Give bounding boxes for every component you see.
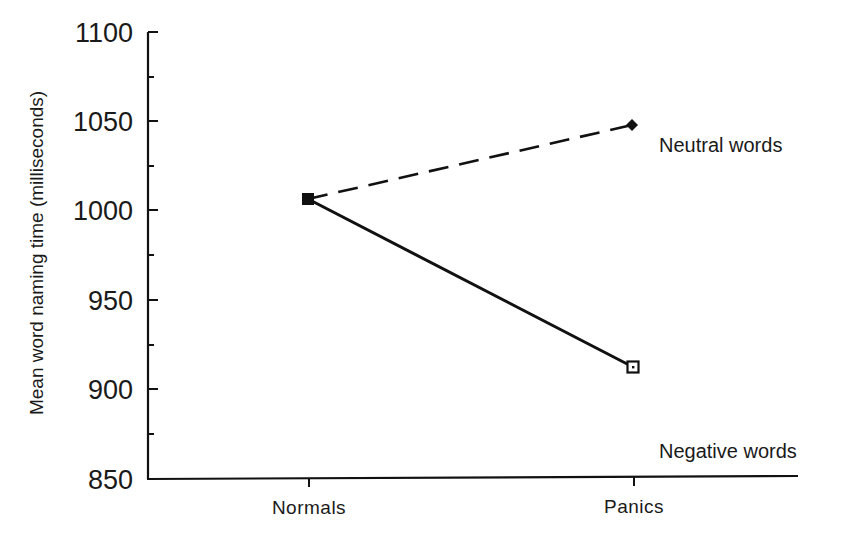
series-negative-words [308,199,639,373]
x-tick-normals: Normals [272,497,346,518]
series-neutral-words [308,119,638,199]
x-tick-panics: Panics [604,496,664,517]
y-tick-950: 950 [88,286,133,316]
y-tick-1050: 1050 [73,107,133,137]
y-tick-1000: 1000 [73,196,133,226]
x-axis [147,476,798,487]
line-chart: Mean word naming time (milliseconds) 110… [0,0,843,538]
y-tick-1100: 1100 [75,18,133,48]
y-tick-labels: 1100 1050 1000 950 900 850 [73,18,133,495]
series-label-neutral: Neutral words [659,134,782,156]
filled-diamond-marker [626,119,638,131]
filled-square-marker [302,193,314,205]
y-tick-900: 900 [88,375,133,405]
y-axis-label: Mean word naming time (milliseconds) [26,91,47,415]
series-label-negative: Negative words [659,440,797,462]
y-tick-850: 850 [88,465,133,495]
y-axis [148,32,158,479]
